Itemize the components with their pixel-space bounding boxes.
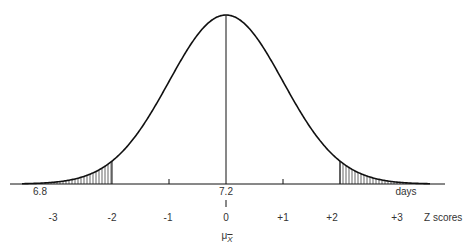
z-tick-label: +1 bbox=[277, 212, 288, 223]
left-value-label: 6.8 bbox=[33, 186, 47, 197]
z-tick-label: -2 bbox=[108, 212, 117, 223]
mean-value-label: 7.2 bbox=[219, 186, 233, 197]
z-tick-label: -1 bbox=[164, 212, 173, 223]
mu-subscript: X bbox=[227, 235, 232, 244]
z-axis-label: Z scores bbox=[424, 212, 462, 223]
normal-curve-figure bbox=[0, 0, 469, 246]
z-tick-label: +3 bbox=[391, 212, 402, 223]
unit-label: days bbox=[395, 186, 416, 197]
mu-x-bar-label: μX bbox=[221, 230, 232, 244]
z-tick-label: -3 bbox=[49, 212, 58, 223]
z-tick-label: +2 bbox=[326, 212, 337, 223]
z-tick-label: 0 bbox=[223, 212, 229, 223]
